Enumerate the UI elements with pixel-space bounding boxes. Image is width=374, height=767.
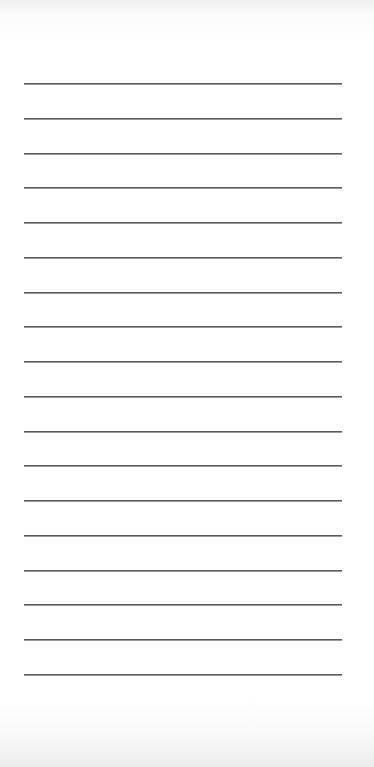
ruled-line bbox=[24, 674, 342, 676]
ruled-line bbox=[24, 639, 342, 641]
ruled-line bbox=[24, 570, 342, 572]
ruled-line bbox=[24, 465, 342, 467]
ruled-line bbox=[24, 222, 342, 224]
ruled-line bbox=[24, 500, 342, 502]
ruled-line bbox=[24, 153, 342, 155]
lined-paper-page bbox=[0, 0, 374, 767]
ruled-line bbox=[24, 118, 342, 120]
ruled-line bbox=[24, 361, 342, 363]
ruled-line bbox=[24, 535, 342, 537]
ruled-line bbox=[24, 187, 342, 189]
ruled-line bbox=[24, 83, 342, 85]
ruled-line bbox=[24, 431, 342, 433]
ruled-line bbox=[24, 396, 342, 398]
ruled-line bbox=[24, 257, 342, 259]
ruled-line bbox=[24, 604, 342, 606]
ruled-line bbox=[24, 326, 342, 328]
ruled-line bbox=[24, 292, 342, 294]
